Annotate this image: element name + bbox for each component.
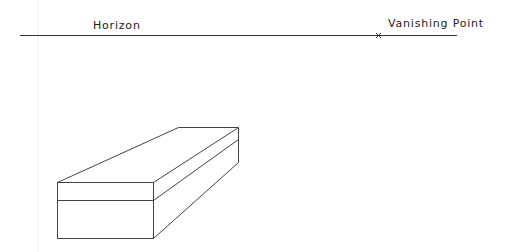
perspective-diagram: Horizon Vanishing Point xyxy=(0,0,507,252)
box-top-face xyxy=(58,128,239,183)
box-front-face xyxy=(58,183,154,239)
horizon-label: Horizon xyxy=(93,19,141,32)
vanishing-point-label: Vanishing Point xyxy=(388,17,484,30)
perspective-box xyxy=(58,128,239,239)
box-side-divider xyxy=(154,140,239,201)
